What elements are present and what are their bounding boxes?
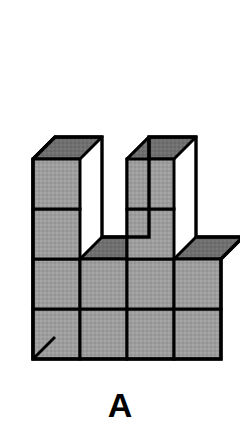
front-face-c4-r1 xyxy=(174,309,221,359)
figure-label-letter: A xyxy=(108,388,133,421)
figure-stage: A xyxy=(0,0,240,421)
front-face-c2-r2 xyxy=(80,259,127,309)
front-face-c3-r1 xyxy=(127,309,174,359)
front-face-c1-r3 xyxy=(33,209,80,259)
figure-body xyxy=(33,137,240,359)
front-face-c4-r2 xyxy=(174,259,221,309)
front-faces xyxy=(33,159,221,359)
front-face-c3-r2 xyxy=(127,259,174,309)
front-face-c1-r2 xyxy=(33,259,80,309)
front-face-c2-r1 xyxy=(80,309,127,359)
figure-caption: A xyxy=(0,388,240,421)
front-face-c1-r4 xyxy=(33,159,80,209)
isometric-cube-figure xyxy=(0,0,240,421)
